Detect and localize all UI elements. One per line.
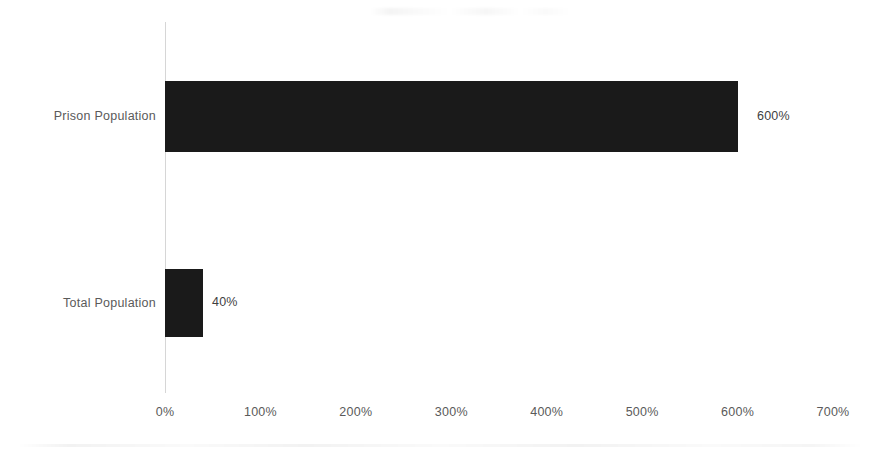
bar-prison-population[interactable] bbox=[165, 81, 738, 152]
category-label-total-population: Total Population bbox=[63, 296, 156, 310]
x-tick-label-500: 500% bbox=[626, 405, 659, 419]
scan-artifact-bottom bbox=[18, 444, 863, 447]
scan-artifact-top bbox=[370, 8, 570, 15]
data-label-total-population: 40% bbox=[212, 295, 238, 309]
x-tick-label-300: 300% bbox=[435, 405, 468, 419]
x-axis-tick-labels: 0%100%200%300%400%500%600%700% bbox=[0, 405, 875, 427]
value-axis-line bbox=[165, 22, 166, 393]
x-tick-label-600: 600% bbox=[721, 405, 754, 419]
bar-total-population[interactable] bbox=[165, 269, 203, 337]
data-label-prison-population: 600% bbox=[757, 109, 790, 123]
x-tick-label-0: 0% bbox=[156, 405, 175, 419]
x-tick-label-400: 400% bbox=[530, 405, 563, 419]
x-tick-label-200: 200% bbox=[339, 405, 372, 419]
bar-chart-figure: 600% 40% Prison Population Total Populat… bbox=[0, 0, 875, 452]
category-label-prison-population: Prison Population bbox=[54, 109, 156, 123]
plot-area bbox=[165, 22, 833, 393]
x-tick-label-700: 700% bbox=[817, 405, 850, 419]
x-tick-label-100: 100% bbox=[244, 405, 277, 419]
